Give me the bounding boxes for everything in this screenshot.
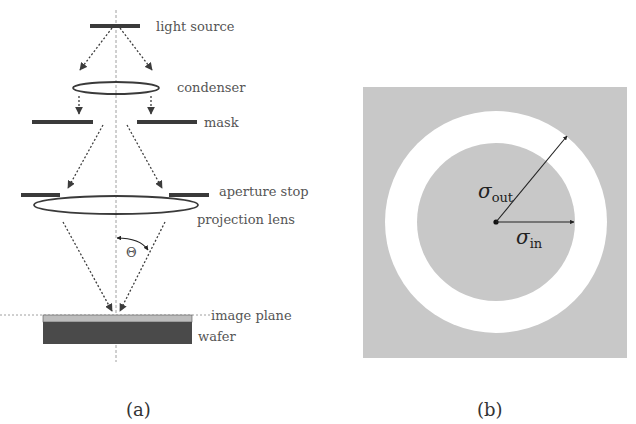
aperture-stop-right [169,193,209,197]
label-mask: mask [204,115,239,130]
label-wafer: wafer [198,329,236,344]
label-projection-lens: projection lens [197,212,295,227]
ray-arrow [80,28,112,70]
ray-arrow [120,222,165,311]
aperture-stop-left [21,193,60,197]
mask-bar-left [32,120,93,124]
mask-bar-right [137,120,197,124]
label-light-source: light source [156,19,235,34]
panel-a-optical-system: light source condenser mask aperture sto… [0,10,309,420]
ray-arrow [63,222,112,311]
ray-arrow [120,28,152,70]
image-plane-layer [43,315,192,322]
wafer [43,322,192,344]
figure: light source condenser mask aperture sto… [0,0,636,424]
label-theta: Θ [126,245,137,260]
ray-arrow [127,125,162,188]
caption-b: (b) [477,399,503,420]
label-image-plane: image plane [211,308,292,323]
caption-a: (a) [126,399,151,420]
ray-arrow [68,125,103,188]
light-source-bar [90,24,140,28]
panel-b-annular-illumination: σout σin (b) [363,87,627,420]
label-aperture-stop: aperture stop [219,184,309,199]
label-condenser: condenser [177,80,246,95]
